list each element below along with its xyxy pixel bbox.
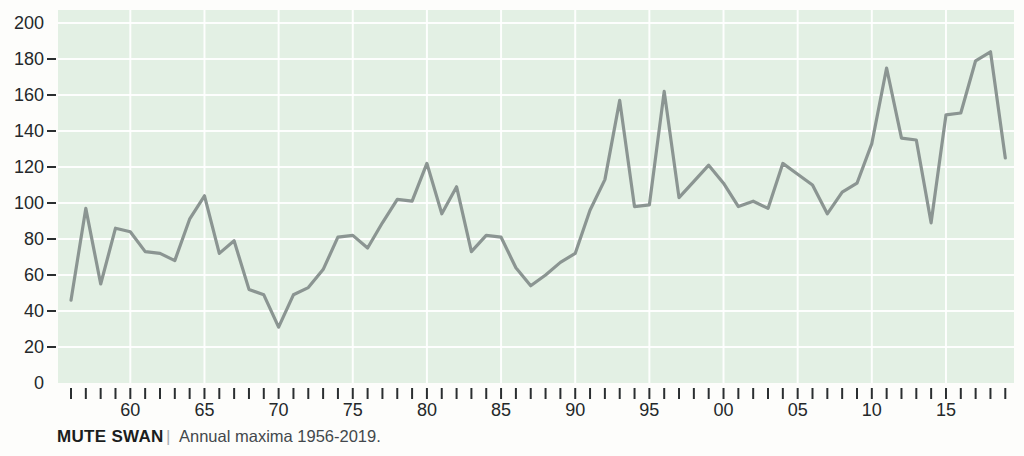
x-axis-label: 60 [120, 400, 140, 420]
y-axis-label: 100 [14, 193, 44, 213]
y-axis-label: 140 [14, 121, 44, 141]
x-axis-label: 15 [936, 400, 956, 420]
y-axis-label: 160 [14, 85, 44, 105]
chart-caption: MUTE SWAN | Annual maxima 1956-2019. [57, 427, 381, 446]
chart-title: MUTE SWAN [57, 427, 164, 446]
x-axis-label: 65 [194, 400, 214, 420]
y-axis-label: 180 [14, 49, 44, 69]
y-axis-label: 20 [24, 337, 44, 357]
x-axis-label: 00 [714, 400, 734, 420]
x-axis-label: 10 [862, 400, 882, 420]
chart-subtitle: Annual maxima 1956-2019. [179, 427, 381, 445]
caption-separator: | [166, 427, 170, 446]
y-axis-label: 40 [24, 301, 44, 321]
plot-area: 0204060801001201401601802006065707580859… [14, 10, 1014, 420]
y-axis-label: 120 [14, 157, 44, 177]
x-axis-label: 95 [639, 400, 659, 420]
chart-canvas: 0204060801001201401601802006065707580859… [0, 0, 1024, 456]
mute-swan-annual-maxima-chart: 0204060801001201401601802006065707580859… [0, 0, 1024, 456]
y-axis-label: 200 [14, 13, 44, 33]
y-axis-label: 80 [24, 229, 44, 249]
x-axis-label: 75 [343, 400, 363, 420]
x-axis-label: 90 [565, 400, 585, 420]
y-axis-label: 0 [34, 373, 44, 393]
x-axis-label: 80 [417, 400, 437, 420]
x-axis-label: 05 [788, 400, 808, 420]
x-axis-label: 70 [269, 400, 289, 420]
plot-background [58, 10, 1014, 383]
y-axis-label: 60 [24, 265, 44, 285]
x-axis-label: 85 [491, 400, 511, 420]
